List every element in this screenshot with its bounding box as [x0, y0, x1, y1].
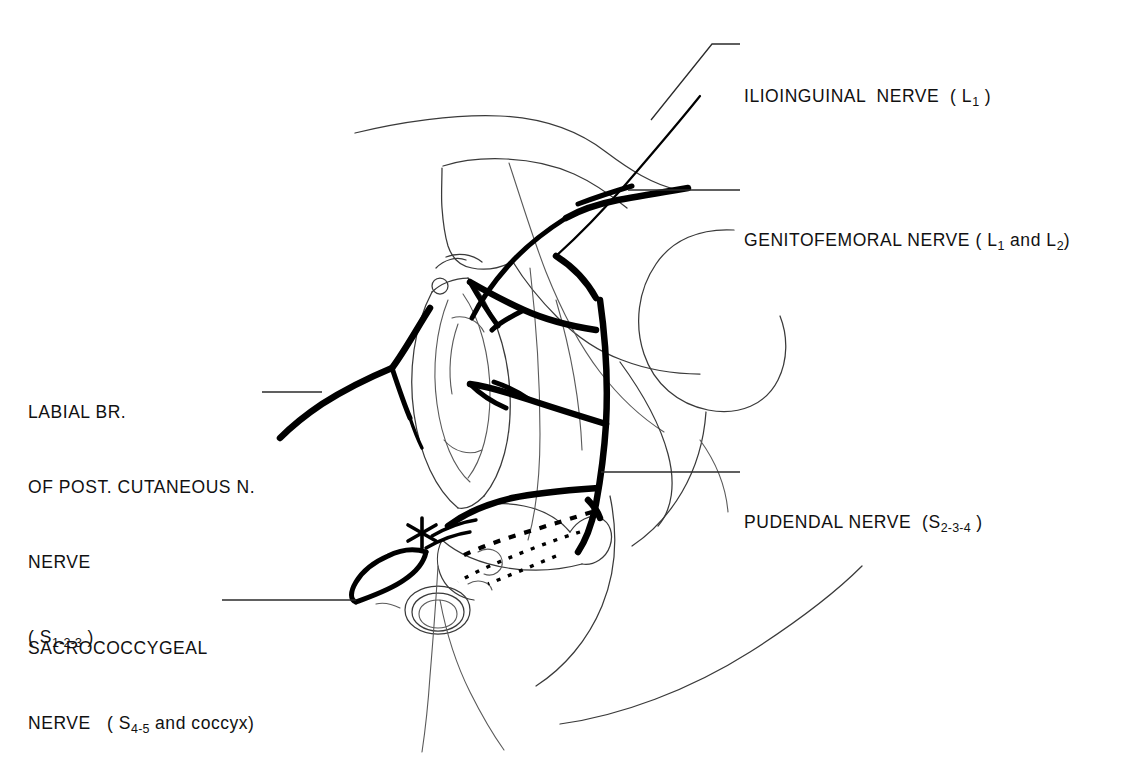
inferior-rectal-dotted-stroke	[462, 512, 592, 556]
pudendal-branch-superior-stroke	[470, 282, 596, 330]
figure-root: ILIOINGUINAL NERVE ( L1 ) GENITOFEMORAL …	[0, 0, 1121, 769]
label-sacrococcygeal-tail: and coccyx)	[150, 713, 255, 733]
label-genitofemoral-sub: 1	[998, 239, 1005, 253]
label-genitofemoral-nerve: GENITOFEMORAL NERVE ( L1 and L2)	[744, 178, 1070, 305]
label-genitofemoral-sub2: 2	[1057, 239, 1064, 253]
label-sacrococcygeal-nerve: SACROCOCCYGEAL NERVE ( S4-5 and coccyx)	[28, 586, 255, 769]
pelvic-sidewall-outline	[536, 496, 615, 686]
sacrococcygeal-nerve-hook-stroke	[356, 552, 426, 602]
leader-lines	[222, 44, 740, 600]
label-pudendal-sub: 2-3-4	[941, 521, 971, 535]
anal-verge-outline	[376, 603, 400, 608]
buttock-contour-outline	[560, 566, 862, 724]
label-genitofemoral-text: GENITOFEMORAL NERVE ( L	[744, 230, 998, 250]
label-labial-line1: LABIAL BR.	[28, 400, 255, 425]
pudendal-trunk-upper-stroke	[556, 256, 596, 298]
lateral-thigh-outline	[632, 412, 706, 546]
leader-ilioinguinal	[651, 44, 740, 120]
labium-majus-apex-outline	[432, 278, 468, 292]
label-pudendal-text: PUDENDAL NERVE (S	[744, 512, 941, 532]
label-pudendal-nerve: PUDENDAL NERVE (S2-3-4 )	[744, 460, 983, 587]
labial-branch-trunk-stroke	[280, 368, 392, 438]
clitoral-hood-outline	[436, 258, 466, 268]
pubic-ramus-outline	[443, 159, 627, 208]
labial-branch-stroke	[392, 308, 430, 368]
labium-minus-left-outline	[435, 300, 470, 482]
label-genitofemoral-tail: )	[1064, 230, 1070, 250]
ischiorectal-fossa-outline	[442, 540, 582, 570]
gluteal-cleft-outline	[440, 600, 504, 750]
anal-sphincter-ring-inner-outline	[419, 600, 457, 628]
label-ilioinguinal-sub: 1	[972, 95, 979, 109]
label-sacrococcygeal-sub: 4-5	[131, 722, 150, 736]
label-ilioinguinal-tail: )	[979, 86, 991, 106]
coccyx-plate-outline	[438, 540, 475, 600]
label-sacrococcygeal-line2: NERVE ( S	[28, 713, 131, 733]
label-labial-line3: NERVE	[28, 550, 255, 575]
ischial-tuberosity-outline	[700, 440, 728, 512]
label-pudendal-tail: )	[971, 512, 983, 532]
sacrococcygeal-nerve-return-stroke	[352, 550, 427, 602]
label-genitofemoral-mid: and L	[1005, 230, 1057, 250]
labial-branch-fork-stroke	[392, 368, 410, 418]
clitoral-prepuce-fold-outline	[446, 254, 482, 262]
label-sacrococcygeal-line1: SACROCOCCYGEAL	[28, 636, 255, 661]
pudendal-branch-middle-stroke	[470, 384, 606, 424]
vestibule-crease-outline	[450, 324, 458, 394]
inferior-rectal-dotted-second-stroke	[458, 532, 580, 582]
nerve-strokes	[280, 96, 700, 602]
label-labial-line2: OF POST. CUTANEOUS N.	[28, 475, 255, 500]
anal-sphincter-ring-mid-outline	[412, 593, 464, 631]
label-ilioinguinal-nerve: ILIOINGUINAL NERVE ( L1 )	[744, 34, 991, 161]
label-ilioinguinal-text: ILIOINGUINAL NERVE ( L	[744, 86, 972, 106]
vaginal-introitus-outline	[452, 317, 484, 332]
inguinal-fold-outline	[442, 168, 512, 269]
